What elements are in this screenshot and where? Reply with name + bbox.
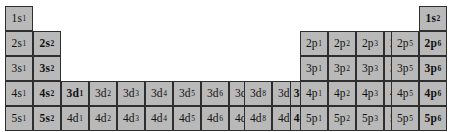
orbital-label: 2p bbox=[425, 38, 438, 50]
orbital-label: 4d bbox=[179, 113, 191, 125]
orbital-label: 4p bbox=[425, 88, 438, 100]
orbital-label: 3d bbox=[151, 88, 163, 100]
orbital-cell-3p6: 3p6 bbox=[419, 56, 447, 81]
orbital-label: 4p bbox=[306, 88, 318, 100]
orbital-cell-4p1: 4p1 bbox=[300, 81, 328, 106]
orbital-label: 3p bbox=[425, 63, 438, 75]
orbital-label: 3p bbox=[334, 63, 346, 75]
orbital-cell-5p6: 5p6 bbox=[419, 106, 447, 131]
orbital-label: 4p bbox=[334, 88, 346, 100]
orbital-label: 3s bbox=[40, 63, 51, 75]
orbital-cell-5s1: 5s1 bbox=[5, 106, 33, 131]
orbital-label: 2s bbox=[40, 38, 51, 50]
orbital-cell-3p2: 3p2 bbox=[328, 56, 356, 81]
orbital-label: 4s bbox=[40, 88, 51, 100]
orbital-cell-2s2: 2s2 bbox=[33, 31, 61, 56]
orbital-label: 2p bbox=[362, 38, 374, 50]
orbital-cell-4d4: 4d4 bbox=[145, 106, 173, 131]
orbital-label: 3d bbox=[278, 88, 290, 100]
orbital-label: 4d bbox=[123, 113, 135, 125]
orbital-cell-4d5: 4d5 bbox=[173, 106, 201, 131]
orbital-label: 3p bbox=[362, 63, 374, 75]
orbital-label: 5s bbox=[12, 113, 23, 125]
orbital-cell-3d2: 3d2 bbox=[89, 81, 117, 106]
orbital-label: 3d bbox=[123, 88, 135, 100]
orbital-cell-3d3: 3d3 bbox=[117, 81, 145, 106]
orbital-cell-1s2: 1s2 bbox=[419, 6, 447, 31]
orbital-cell-4s1: 4s1 bbox=[5, 81, 33, 106]
orbital-cell-5p1: 5p1 bbox=[300, 106, 328, 131]
orbital-cell-2s1: 2s1 bbox=[5, 31, 33, 56]
orbital-cell-3p3: 3p3 bbox=[356, 56, 384, 81]
orbital-label: 1s bbox=[12, 13, 23, 25]
orbital-cell-3d1: 3d1 bbox=[61, 81, 89, 106]
orbital-label: 4d bbox=[207, 113, 219, 125]
orbital-cell-4d3: 4d3 bbox=[117, 106, 145, 131]
orbital-label: 2s bbox=[12, 38, 23, 50]
orbital-label: 3d bbox=[207, 88, 219, 100]
orbital-cell-3d5: 3d5 bbox=[173, 81, 201, 106]
orbital-cell-5s2: 5s2 bbox=[33, 106, 61, 131]
orbital-label: 4s bbox=[12, 88, 23, 100]
orbital-label: 3d bbox=[95, 88, 107, 100]
orbital-label: 4p bbox=[397, 88, 409, 100]
orbital-cell-2p1: 2p1 bbox=[300, 31, 328, 56]
orbital-label: 2p bbox=[334, 38, 346, 50]
orbital-cell-4d8: 4d8 bbox=[244, 106, 272, 131]
orbital-label: 3d bbox=[250, 88, 262, 100]
orbital-label: 5p bbox=[425, 113, 438, 125]
orbital-cell-4d6: 4d6 bbox=[201, 106, 229, 131]
orbital-label: 2p bbox=[397, 38, 409, 50]
orbital-label: 3p bbox=[306, 63, 318, 75]
orbital-label: 5s bbox=[40, 113, 51, 125]
orbital-label: 3d bbox=[67, 88, 80, 100]
orbital-cell-1s1: 1s1 bbox=[5, 6, 33, 31]
orbital-label: 4d bbox=[95, 113, 107, 125]
orbital-label: 3d bbox=[179, 88, 191, 100]
orbital-label: 4p bbox=[362, 88, 374, 100]
orbital-cell-3s1: 3s1 bbox=[5, 56, 33, 81]
orbital-cell-3p1: 3p1 bbox=[300, 56, 328, 81]
orbital-cell-5p2: 5p2 bbox=[328, 106, 356, 131]
orbital-cell-4d2: 4d2 bbox=[89, 106, 117, 131]
orbital-cell-3p5: 3p5 bbox=[391, 56, 419, 81]
orbital-cell-2p2: 2p2 bbox=[328, 31, 356, 56]
orbital-label: 5p bbox=[306, 113, 318, 125]
orbital-label: 1s bbox=[426, 13, 437, 25]
orbital-cell-3d4: 3d4 bbox=[145, 81, 173, 106]
orbital-label: 3s bbox=[12, 63, 23, 75]
orbital-cell-3d8: 3d8 bbox=[244, 81, 272, 106]
orbital-label: 4d bbox=[151, 113, 163, 125]
orbital-cell-4p6: 4p6 bbox=[419, 81, 447, 106]
orbital-cell-2p6: 2p6 bbox=[419, 31, 447, 56]
orbital-cell-4d1: 4d1 bbox=[61, 106, 89, 131]
orbital-cell-4p5: 4p5 bbox=[391, 81, 419, 106]
periodic-table-orbital-diagram: 1s11s22s12s22p12p22p32p42p52p63s13s23p13… bbox=[0, 0, 451, 132]
orbital-label: 4d bbox=[250, 113, 262, 125]
orbital-label: 5p bbox=[362, 113, 374, 125]
orbital-cell-2p5: 2p5 bbox=[391, 31, 419, 56]
orbital-label: 3p bbox=[397, 63, 409, 75]
orbital-cell-4p2: 4p2 bbox=[328, 81, 356, 106]
orbital-cell-2p3: 2p3 bbox=[356, 31, 384, 56]
orbital-label: 5p bbox=[397, 113, 409, 125]
orbital-label: 5p bbox=[334, 113, 346, 125]
orbital-label: 4d bbox=[278, 113, 290, 125]
orbital-cell-4p3: 4p3 bbox=[356, 81, 384, 106]
orbital-cell-3s2: 3s2 bbox=[33, 56, 61, 81]
orbital-cell-3d6: 3d6 bbox=[201, 81, 229, 106]
orbital-label: 2p bbox=[306, 38, 318, 50]
orbital-label: 4d bbox=[67, 113, 79, 125]
orbital-cell-5p3: 5p3 bbox=[356, 106, 384, 131]
orbital-cell-4s2: 4s2 bbox=[33, 81, 61, 106]
orbital-cell-5p5: 5p5 bbox=[391, 106, 419, 131]
